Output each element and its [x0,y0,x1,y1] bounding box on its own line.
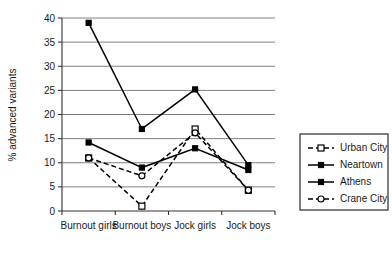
data-point-open-square [139,203,145,209]
y-axis-title: % advanced variants [7,69,18,162]
y-tick-label: 10 [44,157,56,168]
y-tick-labels-group: 0510152025303540 [44,13,56,217]
x-category-label: Burnout boys [112,220,171,231]
data-point-open-circle [192,130,198,136]
y-tick-label: 5 [49,181,55,192]
series-line [89,23,249,165]
legend-label: Athens [340,176,371,187]
x-category-labels-group: Burnout girlsBurnout boysJock girlsJock … [61,220,271,231]
y-tick-marks-group [58,18,62,211]
y-tick-label: 40 [44,13,56,24]
data-point-open-circle [86,155,92,161]
x-tick-marks-group [62,211,275,215]
chart-legend: Urban CityNeartownAthensCrane City [300,134,388,210]
y-tick-label: 30 [44,61,56,72]
line-chart: 0510152025303540 Burnout girlsBurnout bo… [0,0,392,260]
y-tick-label: 0 [49,206,55,217]
data-point-filled-square [139,165,144,170]
y-tick-label: 35 [44,37,56,48]
data-point-filled-square [86,140,91,145]
legend-label: Urban City [340,142,387,153]
data-point-open-square [318,145,324,151]
x-category-label: Burnout girls [61,220,117,231]
y-tick-label: 25 [44,85,56,96]
x-category-label: Jock boys [226,220,270,231]
y-tick-label: 15 [44,133,56,144]
data-point-open-circle [139,173,145,179]
data-point-filled-square [139,126,144,131]
legend-label: Crane City [340,193,387,204]
data-point-open-circle [245,187,251,193]
data-point-filled-square [193,87,198,92]
data-point-filled-square [318,162,323,167]
data-point-filled-square [193,146,198,151]
data-point-filled-square [246,163,251,168]
series-neartown [86,140,251,173]
series-line [89,129,249,206]
data-point-filled-square [318,179,323,184]
data-point-open-circle [318,196,324,202]
gridlines-group [62,18,275,187]
x-category-label: Jock girls [174,220,216,231]
legend-label: Neartown [340,159,383,170]
y-tick-label: 20 [44,109,56,120]
data-point-filled-square [86,20,91,25]
chart-container: 0510152025303540 Burnout girlsBurnout bo… [0,0,392,260]
